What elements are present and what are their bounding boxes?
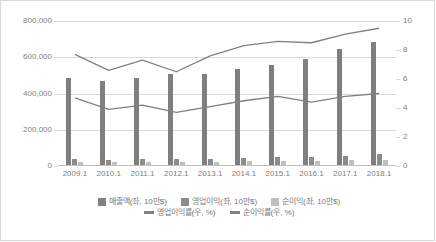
x-axis-tick-label: 2014.1 <box>232 169 256 179</box>
legend-color-swatch <box>181 198 189 206</box>
x-axis-tick-label: 2015.1 <box>265 169 289 179</box>
x-axis-tick-label: 2011.1 <box>131 169 155 179</box>
y-axis-right-tick-mark <box>396 21 400 22</box>
bar <box>235 69 240 166</box>
bar-group <box>261 21 295 166</box>
legend-label: 영업이익(좌, 10만$) <box>192 197 257 206</box>
legend-item[interactable]: 매출액(좌, 10만$) <box>98 197 167 206</box>
y-axis-right-tick-label: 10 <box>403 17 412 25</box>
y-axis-right-tick-label: 6 <box>403 75 407 83</box>
plot-area: 0200,000400,000600,000800,000 0246810 <box>58 21 396 166</box>
bars-group <box>58 21 396 166</box>
bar-group <box>92 21 126 166</box>
legend-row-lines: 영업이익률(우, %)순이익률(우, %) <box>144 208 295 217</box>
bar-group <box>227 21 261 166</box>
bar <box>269 65 274 167</box>
x-axis-tick-label: 2017.1 <box>333 169 357 179</box>
bar <box>303 59 308 166</box>
y-axis-right-tick-mark <box>396 137 400 138</box>
bar <box>337 49 342 166</box>
y-axis-left-tick-label: 600,000 <box>23 53 52 61</box>
x-axis-tick-label: 2010.1 <box>96 169 120 179</box>
legend-label: 매출액(좌, 10만$) <box>109 197 167 206</box>
legend-item[interactable]: 영업이익률(우, %) <box>144 208 216 217</box>
y-axis-right-tick-mark <box>396 108 400 109</box>
bar-group <box>159 21 193 166</box>
x-axis-tick-label: 2013.1 <box>198 169 222 179</box>
y-axis-left-tick-label: 800,000 <box>23 17 52 25</box>
x-axis-line <box>58 165 396 166</box>
bar <box>66 78 71 166</box>
legend-label: 순이익률(우, %) <box>243 208 295 217</box>
y-axis-right-tick-mark <box>396 50 400 51</box>
x-axis-tick-label: 2012.1 <box>164 169 188 179</box>
y-axis-left-tick-label: 200,000 <box>23 126 52 134</box>
bar <box>168 74 173 166</box>
y-axis-right-tick-label: 4 <box>403 104 407 112</box>
y-axis-right-tick-label: 2 <box>403 133 407 141</box>
bar-group <box>295 21 329 166</box>
legend-label: 영업이익률(우, %) <box>157 208 216 217</box>
bar <box>100 81 105 166</box>
legend-line-marker <box>230 211 240 214</box>
bar <box>371 42 376 166</box>
chart-container: 0200,000400,000600,000800,000 0246810 20… <box>0 0 435 241</box>
bar-group <box>193 21 227 166</box>
y-axis-left-tick-mark <box>54 166 58 167</box>
chart-legend: 매출액(좌, 10만$)영업이익(좌, 10만$)순이익(좌, 10만$) 영업… <box>1 197 436 217</box>
x-axis-tick-label: 2009.1 <box>63 169 87 179</box>
bar <box>202 74 207 166</box>
legend-item[interactable]: 순이익(좌, 10만$) <box>271 197 340 206</box>
y-axis-right-tick-mark <box>396 166 400 167</box>
legend-line-marker <box>144 211 154 214</box>
y-axis-right-tick-mark <box>396 79 400 80</box>
legend-color-swatch <box>271 198 279 206</box>
legend-item[interactable]: 영업이익(좌, 10만$) <box>181 197 257 206</box>
y-axis-left-tick-label: 400,000 <box>23 90 52 98</box>
legend-item[interactable]: 순이익률(우, %) <box>230 208 295 217</box>
x-axis-tick-label: 2018.1 <box>367 169 391 179</box>
bar-group <box>362 21 396 166</box>
bar-group <box>58 21 92 166</box>
legend-label: 순이익(좌, 10만$) <box>282 197 340 206</box>
legend-color-swatch <box>98 198 106 206</box>
x-axis-labels: 2009.12010.12011.12012.12013.12014.12015… <box>58 169 396 183</box>
bar <box>134 78 139 166</box>
legend-row-bars: 매출액(좌, 10만$)영업이익(좌, 10만$)순이익(좌, 10만$) <box>98 197 340 206</box>
bar-group <box>328 21 362 166</box>
y-axis-left-tick-label: 0 <box>48 162 52 170</box>
x-axis-tick-label: 2016.1 <box>299 169 323 179</box>
bar-group <box>126 21 160 166</box>
y-axis-right-tick-label: 0 <box>403 162 407 170</box>
y-axis-right-tick-label: 8 <box>403 46 407 54</box>
